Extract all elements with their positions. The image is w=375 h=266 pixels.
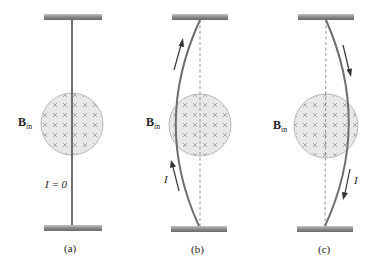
wire-in-magnetic-field-figure: Bin I = 0 (a) Bin I (b) xyxy=(0,0,375,266)
top-support-bar xyxy=(172,14,228,20)
field-label: Bin xyxy=(146,115,160,131)
current-label: I xyxy=(353,174,359,186)
current-label: I = 0 xyxy=(44,178,68,190)
field-label: Bin xyxy=(18,115,32,131)
bottom-support-bar xyxy=(171,226,227,232)
panel-a: Bin I = 0 (a) xyxy=(18,14,103,255)
panel-caption: (b) xyxy=(191,243,204,256)
current-arrow-up-icon xyxy=(170,160,179,191)
top-support-bar xyxy=(298,14,354,20)
top-support-bar xyxy=(44,14,102,20)
field-label: Bin xyxy=(273,118,287,134)
current-arrow-down-icon xyxy=(343,45,352,77)
panel-b: Bin I (b) xyxy=(146,14,231,256)
panel-c: Bin I (c) xyxy=(273,14,359,256)
bottom-support-bar xyxy=(44,225,102,231)
panel-caption: (c) xyxy=(318,243,331,256)
bottom-support-bar xyxy=(297,226,353,232)
panel-caption: (a) xyxy=(64,242,77,255)
current-arrow-up-icon xyxy=(174,38,184,70)
current-label: I xyxy=(163,173,169,185)
